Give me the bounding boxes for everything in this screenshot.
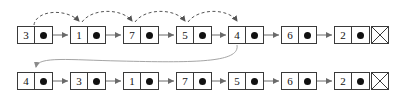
top-node-2-key: 7: [124, 27, 141, 43]
pointer-dot-icon: [40, 78, 47, 85]
bottom-node-1[interactable]: 3: [70, 72, 106, 90]
pointer-dot-icon: [199, 78, 206, 85]
top-node-4[interactable]: 4: [228, 26, 264, 44]
bottom-node-6-pointer: [352, 73, 369, 89]
pointer-dot-icon: [304, 32, 311, 39]
pointer-dot-icon: [357, 78, 364, 85]
pointer-dot-icon: [304, 78, 311, 85]
pointer-dot-icon: [93, 78, 100, 85]
top-node-3-pointer: [194, 27, 211, 43]
bottom-node-1-key: 3: [71, 73, 88, 89]
top-node-5-pointer: [299, 27, 316, 43]
top-node-3[interactable]: 5: [176, 26, 212, 44]
bottom-node-2-pointer: [141, 73, 158, 89]
pointer-dot-icon: [357, 32, 364, 39]
bottom-null-terminator-icon: [371, 72, 389, 90]
top-node-1-key: 1: [71, 27, 88, 43]
top-node-2-pointer: [141, 27, 158, 43]
dashed-search-arcs: [34, 11, 237, 25]
top-node-0-pointer: [35, 27, 52, 43]
bottom-node-4-key: 5: [229, 73, 246, 89]
bottom-node-3-pointer: [194, 73, 211, 89]
top-node-0-key: 3: [18, 27, 35, 43]
top-node-1-pointer: [88, 27, 105, 43]
bottom-node-6-key: 2: [335, 73, 352, 89]
top-null-terminator-icon: [371, 26, 389, 44]
top-node-5[interactable]: 6: [281, 26, 317, 44]
bottom-node-0-pointer: [35, 73, 52, 89]
bottom-node-0-key: 4: [18, 73, 35, 89]
pointer-dot-icon: [199, 32, 206, 39]
bottom-node-3[interactable]: 7: [176, 72, 212, 90]
top-node-0[interactable]: 3: [17, 26, 53, 44]
bottom-node-5-pointer: [299, 73, 316, 89]
bottom-node-4[interactable]: 5: [228, 72, 264, 90]
bottom-node-5[interactable]: 6: [281, 72, 317, 90]
top-node-1[interactable]: 1: [70, 26, 106, 44]
pointer-dot-icon: [251, 32, 258, 39]
node-move-curve: [36, 45, 237, 67]
pointer-dot-icon: [146, 78, 153, 85]
top-node-6-pointer: [352, 27, 369, 43]
bottom-node-5-key: 6: [282, 73, 299, 89]
bottom-node-2-key: 1: [124, 73, 141, 89]
pointer-dot-icon: [40, 32, 47, 39]
linked-list-diagram: 3 1 7 5 4 6 2 4 3 1 7 5: [0, 0, 403, 99]
top-node-5-key: 6: [282, 27, 299, 43]
pointer-dot-icon: [93, 32, 100, 39]
bottom-node-2[interactable]: 1: [123, 72, 159, 90]
bottom-node-1-pointer: [88, 73, 105, 89]
top-node-4-pointer: [246, 27, 263, 43]
top-node-3-key: 5: [177, 27, 194, 43]
bottom-node-0[interactable]: 4: [17, 72, 53, 90]
pointer-dot-icon: [251, 78, 258, 85]
top-node-6-key: 2: [335, 27, 352, 43]
top-node-4-key: 4: [229, 27, 246, 43]
bottom-node-3-key: 7: [177, 73, 194, 89]
bottom-node-4-pointer: [246, 73, 263, 89]
pointer-dot-icon: [146, 32, 153, 39]
top-node-2[interactable]: 7: [123, 26, 159, 44]
bottom-node-6[interactable]: 2: [334, 72, 370, 90]
top-node-6[interactable]: 2: [334, 26, 370, 44]
